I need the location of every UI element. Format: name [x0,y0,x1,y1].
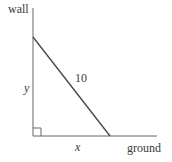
ladder-line [33,37,110,136]
hypotenuse-label: 10 [75,72,87,84]
vertical-leg-label: y [24,82,29,94]
ladder-diagram: wall 10 y x ground [0,0,172,162]
right-angle-marker [33,128,41,136]
ground-label: ground [127,142,161,154]
wall-label: wall [8,3,29,15]
horizontal-leg-label: x [75,141,80,153]
